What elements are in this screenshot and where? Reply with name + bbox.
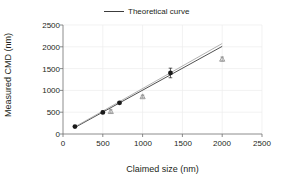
data-point-circle: [117, 100, 122, 105]
data-point-circle: [168, 71, 173, 76]
plot-area: [0, 0, 281, 181]
fitted-trend-line: [75, 44, 222, 127]
axis-lines: [60, 25, 262, 137]
theoretical-curve-line: [75, 46, 222, 127]
trend-lines: [75, 44, 222, 128]
data-point-circle: [100, 110, 105, 115]
data-markers: [73, 56, 225, 129]
chart-figure: Theoretical curve Measured CMD (nm) 2500…: [0, 0, 281, 181]
data-point-circle: [73, 124, 78, 129]
